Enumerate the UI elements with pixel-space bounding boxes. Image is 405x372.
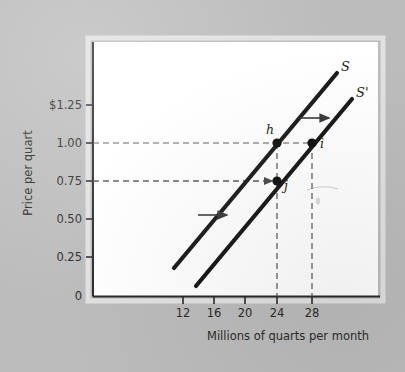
x-axis-title: Millions of quarts per month — [207, 329, 369, 343]
supply-shift-chart: $1.25 1.00 0.75 0.50 0.25 0 12 16 20 24 … — [0, 0, 405, 372]
supply-curve-figure: $1.25 1.00 0.75 0.50 0.25 0 12 16 20 24 … — [0, 0, 405, 372]
x-tick-label-28: 28 — [305, 306, 320, 320]
data-point-label-i: i — [320, 136, 324, 151]
y-tick-label-0: 0 — [75, 289, 82, 303]
curve-label-S: S — [341, 59, 350, 74]
y-axis-title: Price per quart — [21, 130, 35, 216]
data-point-label-h: h — [266, 122, 274, 137]
data-point-h — [272, 138, 281, 147]
y-tick-label-125: $1.25 — [49, 98, 82, 112]
scan-speck — [316, 198, 320, 205]
y-tick-label-100: 1.00 — [56, 136, 82, 150]
x-tick-label-20: 20 — [238, 306, 253, 320]
x-tick-label-16: 16 — [207, 306, 222, 320]
data-point-j — [272, 176, 281, 185]
data-point-i — [307, 138, 316, 147]
y-tick-label-050: 0.50 — [56, 212, 82, 226]
y-tick-label-075: 0.75 — [56, 174, 82, 188]
x-tick-label-24: 24 — [270, 306, 285, 320]
x-tick-label-12: 12 — [176, 306, 191, 320]
curve-label-S-prime: S' — [356, 85, 368, 100]
plot-background — [93, 42, 378, 297]
y-tick-label-025: 0.25 — [56, 250, 82, 264]
